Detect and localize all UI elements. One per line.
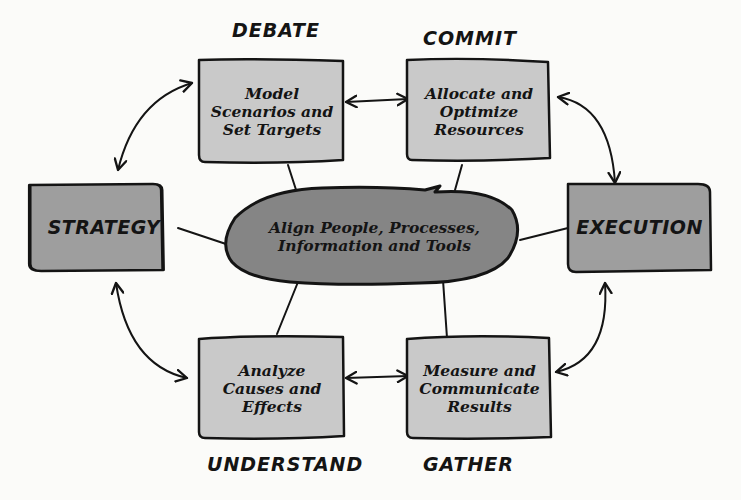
performance-management-cycle-diagram: DEBATE COMMIT UNDERSTAND GATHER Model Sc… (0, 0, 741, 500)
arrow-debate-commit (346, 99, 408, 102)
box-line: Allocate and (425, 85, 533, 103)
phase-label-understand: UNDERSTAND (207, 454, 363, 476)
hub-line: Information and Tools (278, 237, 471, 255)
arrow-strategy-understand (116, 283, 187, 378)
phase-label-debate: DEBATE (232, 20, 320, 42)
box-line: Model (245, 85, 299, 103)
box-line: Analyze (239, 362, 306, 380)
arrow-strategy-debate (118, 83, 192, 170)
box-line: Causes and (223, 380, 322, 398)
connector-allocate (455, 165, 462, 190)
phase-label-gather: GATHER (423, 454, 514, 476)
hub-line: Align People, Processes, (269, 219, 480, 237)
box-line: Scenarios and (211, 103, 333, 121)
box-analyze-causes-label: Analyze Causes and Effects (199, 342, 345, 436)
arrow-understand-gather (346, 376, 408, 378)
execution-label: EXECUTION (568, 185, 711, 271)
strategy-label: STRATEGY (30, 185, 178, 271)
box-model-scenarios-label: Model Scenarios and Set Targets (199, 66, 345, 158)
box-line: Set Targets (223, 121, 321, 139)
box-line: Effects (242, 398, 302, 416)
connector-strategy (178, 228, 226, 244)
box-line: Optimize (440, 103, 518, 121)
connector-execution (520, 228, 568, 240)
box-line: Communicate (419, 380, 539, 398)
connector-measure (443, 280, 447, 338)
arrow-gather-execution (556, 283, 605, 372)
box-line: Results (447, 398, 512, 416)
arrow-commit-execution (558, 97, 615, 183)
phase-label-commit: COMMIT (423, 28, 517, 50)
box-measure-results-label: Measure and Communicate Results (407, 342, 552, 436)
box-line: Resources (434, 121, 523, 139)
hub-label: Align People, Processes, Information and… (232, 204, 517, 270)
box-allocate-resources-label: Allocate and Optimize Resources (407, 66, 551, 158)
connector-analyze (277, 282, 298, 334)
box-line: Measure and (423, 362, 536, 380)
